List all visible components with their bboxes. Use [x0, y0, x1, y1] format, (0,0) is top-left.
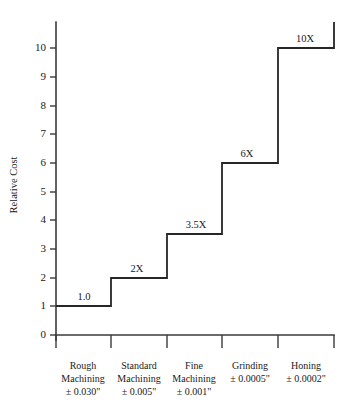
- y-tick-label-9: 9: [41, 70, 47, 82]
- x-category-labels: Rough Machining ± 0.030" Standard Machin…: [61, 360, 325, 397]
- data-label-2: 2X: [131, 263, 144, 274]
- x-tick-marks: [56, 335, 334, 348]
- x-cat-3-line2: ± 0.0005": [230, 373, 270, 384]
- chart-canvas: 10 9 8 7 6 5 4 3 2 1 0 1.0 2X 3.5X 6X 10…: [0, 0, 356, 418]
- x-cat-2-line1: Fine: [185, 360, 203, 371]
- y-tick-marks: [50, 48, 56, 335]
- x-cat-3-line1: Grinding: [232, 360, 268, 371]
- x-cat-2-line2: Machining: [172, 373, 215, 384]
- x-category-fine-machining: Fine Machining ± 0.001": [172, 360, 215, 397]
- x-category-standard-machining: Standard Machining ± 0.005": [117, 360, 160, 397]
- x-category-honing: Honing ± 0.0002": [286, 360, 326, 384]
- x-cat-0-line2: Machining: [61, 373, 104, 384]
- x-category-rough-machining: Rough Machining ± 0.030": [61, 360, 104, 397]
- x-cat-0-line3: ± 0.030": [66, 386, 101, 397]
- y-axis-title: Relative Cost: [8, 156, 19, 213]
- x-cat-2-line3: ± 0.001": [177, 386, 212, 397]
- x-cat-4-line2: ± 0.0002": [286, 373, 326, 384]
- y-tick-label-8: 8: [41, 99, 47, 111]
- x-cat-4-line1: Honing: [291, 360, 321, 371]
- x-cat-1-line3: ± 0.005": [122, 386, 157, 397]
- y-tick-label-5: 5: [41, 185, 47, 197]
- y-tick-label-1: 1: [41, 299, 47, 311]
- data-label-5: 10X: [296, 33, 315, 44]
- y-tick-label-7: 7: [41, 127, 47, 139]
- y-tick-label-6: 6: [41, 156, 47, 168]
- x-cat-1-line2: Machining: [117, 373, 160, 384]
- data-label-1: 1.0: [77, 291, 90, 302]
- y-tick-label-2: 2: [41, 271, 47, 283]
- step-series-line: [56, 22, 334, 306]
- x-cat-0-line1: Rough: [70, 360, 97, 371]
- data-label-3: 3.5X: [186, 219, 207, 230]
- y-tick-label-0: 0: [41, 328, 47, 340]
- x-category-grinding: Grinding ± 0.0005": [230, 360, 270, 384]
- data-label-4: 6X: [241, 148, 254, 159]
- y-tick-label-4: 4: [41, 213, 47, 225]
- x-cat-1-line1: Standard: [121, 360, 157, 371]
- y-tick-label-3: 3: [41, 242, 47, 254]
- relative-cost-step-chart: 10 9 8 7 6 5 4 3 2 1 0 1.0 2X 3.5X 6X 10…: [0, 0, 356, 418]
- y-tick-label-10: 10: [35, 41, 47, 53]
